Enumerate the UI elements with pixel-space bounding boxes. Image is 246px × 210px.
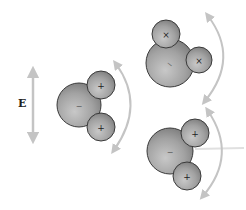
field-label: E (18, 97, 26, 110)
water-molecule-left: − + + (57, 71, 115, 141)
hydrogen-sign: + (97, 123, 105, 133)
water-molecule-top-right: − × × (146, 20, 212, 87)
hydrogen-sign: + (191, 129, 199, 139)
hydrogen-sign: × (162, 30, 170, 40)
hydrogen-sign: + (97, 81, 105, 91)
rotation-arrow-icon (114, 64, 131, 150)
oxygen-sign: − (76, 102, 83, 111)
hydrogen-sign: × (195, 56, 203, 66)
oxygen-sign: − (167, 148, 174, 157)
diagram-canvas: − + + − × × − + + (0, 0, 246, 210)
hydrogen-sign: + (183, 172, 191, 182)
water-molecule-bottom-right: − + + (147, 119, 244, 190)
